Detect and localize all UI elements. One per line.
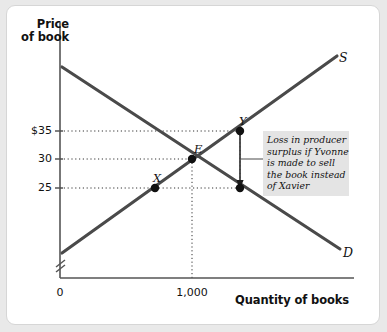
origin-label: 0 [45,287,75,299]
point-demand-at-yvonne-quantity [236,184,244,192]
figure-card: Price of book Quantity of books $35 30 2… [6,5,380,325]
point-equilibrium [188,155,196,163]
producer-surplus-loss-annotation: Loss in producer surplus if Yvonne is ma… [263,131,349,196]
x-tick-label-1000: 1,000 [165,287,219,299]
y-tick-label-35: $35 [13,125,52,137]
y-tick-label-25: 25 [13,182,52,194]
producer-surplus-loss-arrow [236,134,243,189]
point-yvonne [236,127,244,135]
point-label-yvonne: Y [239,114,247,128]
annotation-line-4: the book instead [267,169,345,181]
supply-curve-label: S [339,50,348,65]
annotation-line-1: Loss in producer [267,134,345,146]
annotation-line-5: of Xavier [267,180,345,192]
x-axis-title: Quantity of books [235,294,365,307]
point-xavier [151,184,159,192]
y-tick-label-30: 30 [13,153,52,165]
annotation-line-2: surplus if Yvonne [267,146,345,158]
annotation-line-3: is made to sell [267,157,345,169]
demand-curve-label: D [343,245,353,260]
point-label-equilibrium: E [194,142,202,156]
point-label-xavier: X [153,171,161,185]
y-axis-title-line2: of book [13,31,69,44]
y-axis-title: Price of book [13,18,69,44]
